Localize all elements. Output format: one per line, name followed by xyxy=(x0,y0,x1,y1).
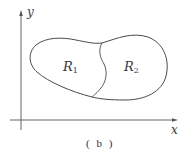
region-label-r2: R2 xyxy=(124,60,139,75)
diagram-canvas xyxy=(0,0,186,159)
x-axis-label: x xyxy=(171,124,178,136)
region-r2-subscript: 2 xyxy=(134,66,139,75)
region-r1-subscript: 1 xyxy=(73,66,78,75)
x-axis-arrow-icon xyxy=(172,118,178,122)
region-label-r1: R1 xyxy=(63,60,78,75)
region-r2-name: R xyxy=(124,59,134,74)
diagram-figure: y x R1 R2 ( b ) xyxy=(0,0,186,159)
y-axis-arrow-icon xyxy=(19,10,23,16)
region-divider xyxy=(92,43,106,97)
y-axis-label: y xyxy=(27,6,34,18)
region-r1-name: R xyxy=(63,59,73,74)
figure-caption: ( b ) xyxy=(86,138,114,149)
